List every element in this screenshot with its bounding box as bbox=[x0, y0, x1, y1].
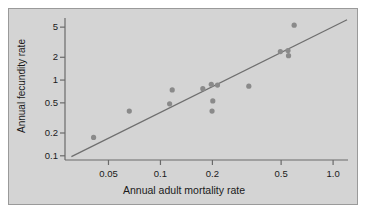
data-point bbox=[209, 82, 214, 87]
x-tick-label: 0.05 bbox=[88, 168, 128, 179]
data-point bbox=[215, 82, 220, 87]
regression-line bbox=[71, 20, 347, 157]
data-point bbox=[127, 108, 132, 113]
data-point bbox=[200, 86, 205, 91]
y-tick-label: 0.1 bbox=[20, 150, 58, 161]
data-points bbox=[91, 23, 297, 140]
x-tick-label: 1.0 bbox=[313, 168, 353, 179]
x-tick-label: 0.5 bbox=[261, 168, 301, 179]
data-point bbox=[170, 87, 175, 92]
y-axis-title: Annual fecundity rate bbox=[16, 39, 27, 133]
data-point bbox=[167, 101, 172, 106]
figure-container: 0.10.20.5125 0.050.10.20.51.0 Annual fec… bbox=[0, 0, 368, 218]
y-tick-label: 5 bbox=[20, 21, 58, 32]
fit-line bbox=[71, 20, 347, 157]
data-point bbox=[292, 23, 297, 28]
x-tick-label: 0.1 bbox=[140, 168, 180, 179]
data-point bbox=[278, 49, 283, 54]
x-axis-title: Annual adult mortality rate bbox=[0, 184, 368, 196]
data-point bbox=[285, 48, 290, 53]
data-point bbox=[210, 98, 215, 103]
data-point bbox=[91, 135, 96, 140]
x-tick-label: 0.2 bbox=[192, 168, 232, 179]
data-point bbox=[209, 108, 214, 113]
data-point bbox=[286, 53, 291, 58]
y-tick-marks bbox=[60, 27, 65, 156]
x-tick-marks bbox=[108, 160, 333, 165]
data-point bbox=[246, 84, 251, 89]
